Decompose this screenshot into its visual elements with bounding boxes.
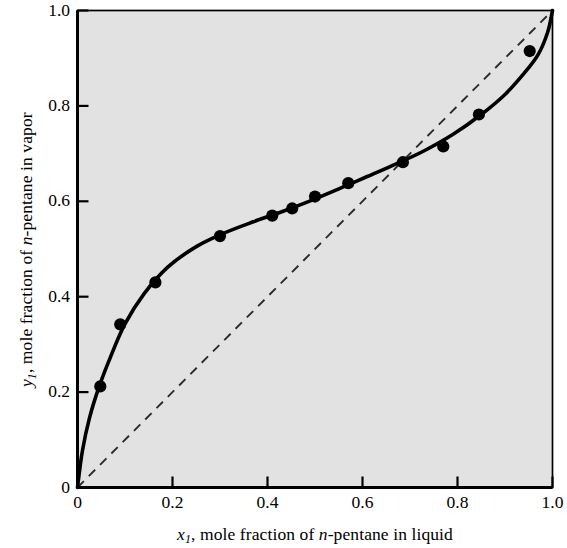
data-point [524, 45, 536, 57]
data-point [266, 210, 278, 222]
data-point [114, 318, 126, 330]
chart-figure: y1, mole fraction of n-pentane in vapor … [0, 0, 567, 548]
data-point [286, 202, 298, 214]
data-point [397, 156, 409, 168]
data-point [149, 276, 161, 288]
data-point [94, 380, 106, 392]
data-point [214, 230, 226, 242]
data-point [437, 140, 449, 152]
data-point [473, 108, 485, 120]
plot-canvas [0, 0, 567, 548]
data-point [309, 190, 321, 202]
data-point [342, 177, 354, 189]
